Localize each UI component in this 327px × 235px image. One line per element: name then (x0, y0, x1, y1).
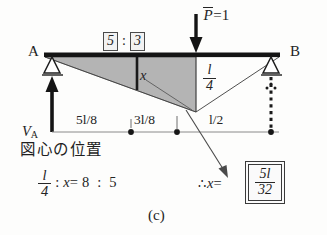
segment-label-x: x (140, 68, 146, 83)
ratio-colon: : (118, 34, 130, 48)
dimension-station-dot (268, 129, 274, 135)
reaction-label-va: VA (22, 124, 38, 140)
proportion-rhs-right: 5 (105, 174, 120, 190)
roller-support-triangle-b (263, 57, 279, 73)
proportion-lhs-numerator: l (38, 168, 51, 184)
answer-box: 5l 32 (245, 161, 285, 204)
conclusion-expression: ∴x= (198, 176, 222, 191)
reaction-symbol: V (22, 123, 31, 139)
ordinate-denominator: 4 (203, 79, 216, 94)
proportion-colon-2: : (93, 174, 105, 190)
conclusion-equals: = (213, 175, 221, 191)
ordinate-fraction-l-over-4: l 4 (203, 63, 216, 93)
ratio-right-box: 3 (130, 32, 145, 51)
ratio-left-box: 5 (103, 32, 118, 51)
roller-dot (274, 87, 277, 90)
figure-caption: (c) (148, 208, 165, 223)
answer-box-inner: 5l 32 (248, 164, 282, 201)
load-equals: = (213, 7, 221, 23)
load-arrow-head (190, 37, 203, 53)
area-ratio-label: 5:3 (103, 32, 145, 51)
proportion-equation: l 4 :x=8:5 (38, 168, 120, 199)
proportion-colon-1: : (51, 174, 63, 190)
ordinate-numerator: l (203, 63, 216, 79)
reaction-subscript: A (31, 129, 38, 140)
dimension-label-5l-8: 5l/8 (76, 113, 97, 127)
load-symbol: P (203, 7, 213, 24)
node-label-b: B (290, 44, 300, 59)
figure-page: A B P=1 5:3 x l 4 5l/8 3l/8 l/2 VA 図心の位置… (0, 0, 327, 235)
roller-dot (270, 83, 273, 86)
beam-member (44, 53, 280, 58)
roller-dot (266, 87, 269, 90)
proportion-equals: = (70, 174, 78, 190)
dimension-label-l-2: l/2 (209, 113, 223, 127)
answer-denominator: 32 (255, 183, 275, 198)
reaction-arrow-head-va (46, 76, 59, 92)
load-label: P=1 (203, 7, 229, 24)
dimension-label-3l-8: 3l/8 (134, 113, 155, 127)
load-value: 1 (222, 7, 230, 23)
answer-numerator: 5l (255, 167, 275, 183)
proportion-lhs-denominator: 4 (38, 184, 51, 199)
therefore-symbol: ∴ (198, 176, 207, 191)
dimension-station-dot (128, 129, 134, 135)
centroid-position-heading: 図心の位置 (20, 143, 103, 159)
proportion-rhs-left: 8 (78, 174, 93, 190)
answer-fraction: 5l 32 (255, 167, 275, 197)
proportion-lhs-fraction: l 4 (38, 168, 51, 199)
node-label-a: A (28, 44, 39, 59)
